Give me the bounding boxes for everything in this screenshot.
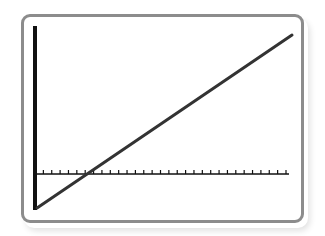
- graph-line: [37, 35, 292, 208]
- graph-plot: [0, 0, 325, 236]
